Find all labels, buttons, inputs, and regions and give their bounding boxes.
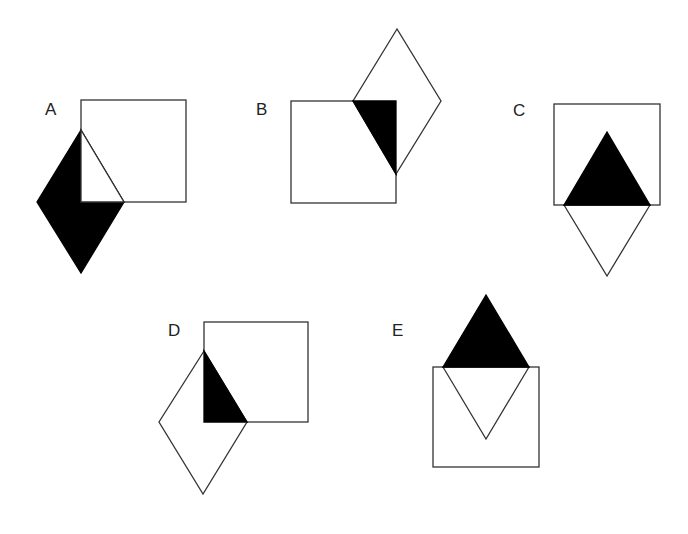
option-a-label: A xyxy=(45,101,56,118)
option-d-figure xyxy=(159,322,308,494)
option-e-figure xyxy=(433,295,539,467)
option-b-figure xyxy=(291,29,441,203)
lower-triangle xyxy=(564,205,650,276)
figures-svg xyxy=(0,0,688,534)
option-c-figure xyxy=(554,104,660,276)
option-c-label: C xyxy=(513,102,525,119)
option-e-label: E xyxy=(392,322,403,339)
black-triangle xyxy=(443,295,529,367)
diagram-canvas: A B C D E xyxy=(0,0,688,534)
option-a-figure xyxy=(37,100,186,273)
option-d-label: D xyxy=(168,322,180,339)
option-b-label: B xyxy=(256,101,267,118)
